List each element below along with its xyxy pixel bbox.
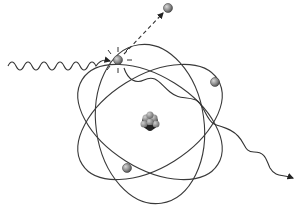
- atom-diagram: [0, 0, 300, 213]
- ejected-electron: [164, 4, 173, 13]
- orbit-electron-lower: [123, 164, 132, 173]
- orbit-electron-right: [211, 78, 220, 87]
- nucleus: [141, 112, 160, 132]
- ejected-electron-path: [124, 13, 163, 54]
- excited-electron: [114, 56, 123, 65]
